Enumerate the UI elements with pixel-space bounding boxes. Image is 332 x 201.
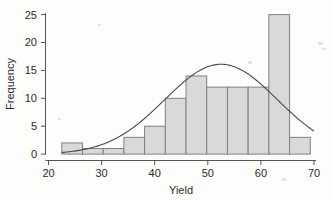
chart-svg: 25 20 15 10 5 0 Frequency 20 30 40 50 60… [0, 0, 332, 201]
x-tick-label-60: 60 [255, 167, 267, 179]
y-tick-label-25: 25 [25, 9, 37, 21]
x-tick-label-20: 20 [42, 167, 54, 179]
y-axis-title: Frequency [4, 58, 16, 110]
y-tick-label-15: 15 [25, 64, 37, 76]
histogram-bars [62, 15, 311, 155]
y-tick-label-0: 0 [31, 148, 37, 160]
y-tick-label-5: 5 [31, 120, 37, 132]
y-tick-label-20: 20 [25, 36, 37, 48]
histogram-bar [145, 126, 166, 154]
histogram-bar [165, 98, 186, 154]
x-tick-label-40: 40 [149, 167, 161, 179]
histogram-bar [248, 87, 269, 154]
histogram-bar [290, 137, 311, 154]
histogram-bar [207, 87, 228, 154]
x-tick-label-30: 30 [95, 167, 107, 179]
x-tick-label-70: 70 [308, 167, 320, 179]
histogram-bar [186, 76, 207, 154]
histogram-bar [269, 15, 290, 155]
y-tick-label-10: 10 [25, 92, 37, 104]
x-tick-label-50: 50 [202, 167, 214, 179]
histogram-chart: 25 20 15 10 5 0 Frequency 20 30 40 50 60… [0, 0, 332, 201]
histogram-bar [124, 137, 145, 154]
x-axis-title: Yield [169, 184, 193, 196]
x-axis: 20 30 40 50 60 70 Yield [42, 161, 320, 197]
histogram-bar [103, 149, 124, 155]
histogram-bar [227, 87, 248, 154]
y-axis: 25 20 15 10 5 0 Frequency [4, 9, 46, 161]
